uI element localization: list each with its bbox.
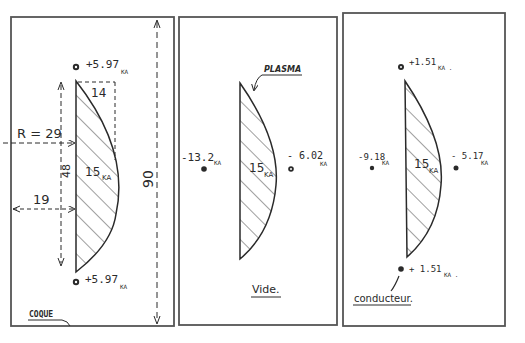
- dim-width-label: 14: [91, 86, 106, 100]
- caption-coque: COQUE: [29, 310, 53, 319]
- conductor-left-icon: [201, 166, 207, 172]
- dim-height-label: 48: [60, 164, 73, 178]
- dim-offset-label: 19: [33, 192, 50, 207]
- caption-conducteur: conducteur.: [354, 293, 413, 304]
- plasma-current-label: 15: [249, 161, 264, 175]
- conductor-top-value: +5.97: [86, 58, 119, 71]
- conductor-left-icon: [370, 166, 374, 170]
- conductor-right-value: - 5.17: [451, 151, 484, 161]
- plasma-label: PLASMA: [264, 65, 301, 74]
- dim-total-height-label: 90: [140, 170, 156, 188]
- conductor-left-unit: KA: [214, 159, 222, 166]
- conductor-right-unit: KA: [481, 159, 489, 166]
- conductor-bottom-unit: KA: [120, 283, 128, 290]
- conductor-top-unit: KA: [121, 68, 129, 75]
- conductor-bottom-value: + 1.51: [409, 264, 442, 274]
- panel-coque: 14 R = 29 48 19 90 15 KA +5.97 KA +5.97 …: [3, 17, 174, 326]
- conductor-top-unit: KA .: [438, 64, 452, 71]
- dim-radius-label: R = 29: [17, 126, 62, 141]
- conductor-left-unit: KA: [382, 159, 390, 166]
- panel-conducteur: 15 KA +1.51 KA . -9.18 KA - 5.17 KA + 1.…: [343, 13, 505, 326]
- conductor-bottom-value: +5.97: [85, 273, 118, 286]
- plasma-current-label: 15: [85, 165, 100, 179]
- plasma-unit-label: KA: [264, 171, 273, 179]
- plasma-current-label: 15: [414, 157, 429, 171]
- conductor-left-value: -13.2: [181, 151, 214, 164]
- conductor-bottom-unit: KA .: [444, 271, 458, 278]
- panel-vide: PLASMA 15 KA -13.2 KA - 6.02 KA Vide.: [179, 17, 337, 325]
- conductor-right-value: - 6.02: [287, 150, 323, 161]
- conductor-right-unit: KA: [320, 160, 328, 167]
- plasma-diagram: 14 R = 29 48 19 90 15 KA +5.97 KA +5.97 …: [0, 0, 525, 343]
- caption-vide: Vide.: [252, 283, 280, 296]
- conductor-right-icon: [454, 166, 459, 171]
- plasma-unit-label: KA: [429, 167, 438, 175]
- plasma-unit-label: KA: [102, 174, 111, 182]
- conductor-top-value: +1.51: [409, 57, 436, 67]
- conductor-bottom-icon: [398, 266, 404, 272]
